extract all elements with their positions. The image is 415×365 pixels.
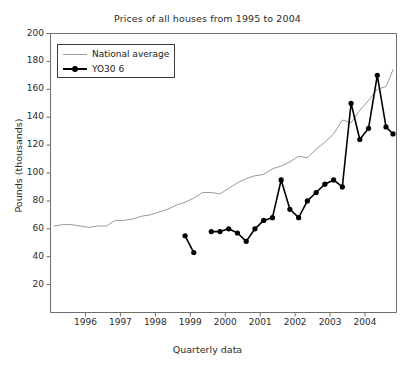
legend-item-national-average: National average [63, 47, 169, 61]
series-line-yo30-6 [211, 75, 393, 241]
data-point [375, 73, 380, 78]
data-point [191, 250, 196, 255]
legend-label-yo30-6: YO30 6 [92, 65, 124, 74]
data-point [390, 131, 395, 136]
data-point [366, 126, 371, 131]
data-point [226, 226, 231, 231]
data-point [331, 177, 336, 182]
chart-legend: National average YO30 6 [57, 44, 175, 78]
data-point [340, 184, 345, 189]
series-line-yo30-6 [185, 236, 194, 253]
data-point [348, 101, 353, 106]
data-point [244, 239, 249, 244]
data-point [296, 215, 301, 220]
legend-label-national-average: National average [92, 50, 169, 59]
data-point [209, 229, 214, 234]
chart-container: Prices of all houses from 1995 to 2004 P… [0, 0, 415, 365]
data-point [279, 177, 284, 182]
data-point [287, 207, 292, 212]
data-point [314, 190, 319, 195]
data-point [270, 215, 275, 220]
legend-line-marker-icon-black [63, 63, 87, 75]
data-point [383, 124, 388, 129]
legend-item-yo30-6: YO30 6 [63, 62, 124, 76]
data-point [322, 182, 327, 187]
series-line-national-average [54, 70, 393, 228]
data-point [217, 229, 222, 234]
data-point [235, 230, 240, 235]
data-point [357, 137, 362, 142]
data-point [182, 233, 187, 238]
data-point [252, 226, 257, 231]
data-point [261, 218, 266, 223]
data-point [305, 198, 310, 203]
legend-line-icon-grey [63, 48, 87, 60]
